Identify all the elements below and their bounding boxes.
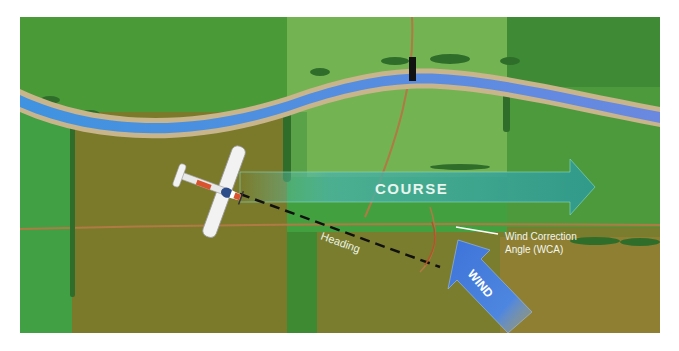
wind-correction-diagram: COURSE Heading Wind Correction Angle (WC… — [20, 17, 660, 333]
wca-label-line2: Angle (WCA) — [505, 244, 563, 255]
course-label: COURSE — [375, 180, 448, 197]
bridge — [409, 57, 416, 81]
wca-label-line1: Wind Correction — [505, 231, 577, 242]
